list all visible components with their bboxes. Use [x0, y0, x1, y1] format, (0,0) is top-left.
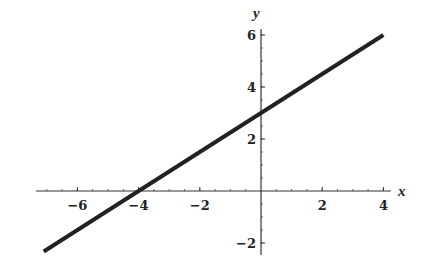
x-tick-label: 2 — [318, 198, 327, 213]
data-line — [44, 35, 384, 251]
x-tick-label: −6 — [67, 198, 87, 213]
x-axis-label: x — [397, 183, 406, 199]
x-tick-label: −2 — [190, 198, 210, 213]
y-tick-labels: −2246 — [236, 28, 256, 251]
x-tick-label: 4 — [379, 198, 388, 213]
y-tick-label: 6 — [247, 28, 256, 43]
y-tick-label: 2 — [247, 132, 256, 147]
y-tick-label: −2 — [236, 236, 256, 251]
y-tick-label: 4 — [247, 80, 256, 95]
line-chart: −6−4−224 −2246 x y — [0, 0, 423, 265]
y-axis-label: y — [251, 5, 260, 21]
x-tick-label: −4 — [129, 198, 149, 213]
